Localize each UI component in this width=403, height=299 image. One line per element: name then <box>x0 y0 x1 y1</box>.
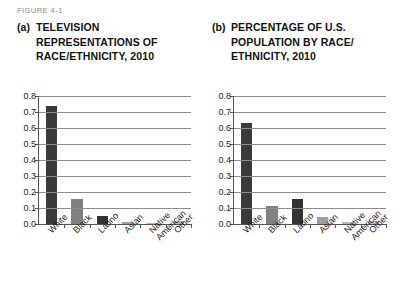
chart-panel-b: 0.00.10.20.30.40.50.60.70.8 WhiteBlackLa… <box>212 92 392 282</box>
gridline <box>39 176 191 177</box>
gridline <box>234 112 386 113</box>
y-tick-label: 0.1 <box>23 204 36 213</box>
y-tick-label: 0.3 <box>23 172 36 181</box>
y-tick-label: 0.4 <box>218 156 231 165</box>
x-axis-labels-b: WhiteBlackLatinoAsianNative AmericanOthe… <box>233 228 385 282</box>
panel-b-marker: (b) <box>212 20 226 35</box>
y-tick-label: 0.1 <box>218 204 231 213</box>
gridline <box>39 112 191 113</box>
gridline <box>234 128 386 129</box>
gridline <box>39 144 191 145</box>
bar <box>46 106 58 224</box>
panel-a-title: (a) TELEVISION REPRESENTATIONS OF RACE/E… <box>17 20 192 64</box>
y-tick-label: 0.6 <box>218 124 231 133</box>
gridline <box>39 192 191 193</box>
gridline <box>234 144 386 145</box>
y-tick-label: 0.5 <box>23 140 36 149</box>
gridline <box>39 128 191 129</box>
figure-label: FIGURE 4-1 <box>17 6 63 15</box>
y-tick-label: 0.4 <box>23 156 36 165</box>
gridline <box>234 192 386 193</box>
panel-a-marker: (a) <box>17 20 30 35</box>
y-tick-label: 0.6 <box>23 124 36 133</box>
gridline <box>39 160 191 161</box>
y-tick-label: 0.0 <box>218 220 231 229</box>
y-tick-label: 0.2 <box>23 188 36 197</box>
y-tick-label: 0.7 <box>23 108 36 117</box>
panel-b-title-text: PERCENTAGE OF U.S. POPULATION BY RACE/ E… <box>231 20 397 64</box>
gridline <box>39 96 191 97</box>
gridline <box>234 96 386 97</box>
figure-container: FIGURE 4-1 (a) TELEVISION REPRESENTATION… <box>0 0 403 299</box>
chart-panel-a: 0.00.10.20.30.40.50.60.70.8 WhiteBlackLa… <box>17 92 197 282</box>
y-tick-label: 0.8 <box>218 92 231 101</box>
y-tick-label: 0.5 <box>218 140 231 149</box>
panel-b-title: (b) PERCENTAGE OF U.S. POPULATION BY RAC… <box>212 20 397 64</box>
y-tick-label: 0.3 <box>218 172 231 181</box>
y-tick-label: 0.8 <box>23 92 36 101</box>
gridline <box>234 160 386 161</box>
x-tick-mark <box>191 224 192 228</box>
gridline <box>234 176 386 177</box>
panel-a-title-text: TELEVISION REPRESENTATIONS OF RACE/ETHNI… <box>36 20 192 64</box>
y-tick-label: 0.2 <box>218 188 231 197</box>
x-axis-labels-a: WhiteBlackLatinoAsianNative AmericanOthe… <box>38 228 190 282</box>
x-tick-mark <box>386 224 387 228</box>
y-tick-label: 0.0 <box>23 220 36 229</box>
y-tick-label: 0.7 <box>218 108 231 117</box>
